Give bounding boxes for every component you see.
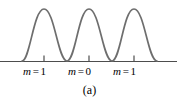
x-tick-label-center: m=0 [68, 66, 91, 77]
tick-label-right-symbol: m [113, 65, 121, 77]
tick-label-left-equals: = [31, 65, 40, 77]
tick-label-left-value: 1 [41, 65, 47, 77]
tick-label-left-symbol: m [23, 65, 31, 77]
tick-label-right-value: 1 [131, 65, 137, 77]
figure-caption: (a) [0, 84, 179, 96]
intensity-curve [22, 9, 157, 61]
tick-label-center-value: 0 [86, 65, 92, 77]
x-tick-label-right: m=1 [113, 66, 136, 77]
x-tick-label-left: m=1 [23, 66, 46, 77]
tick-label-center-equals: = [76, 65, 85, 77]
diffraction-figure: m=1 m=0 m=1 (a) [0, 0, 179, 110]
tick-label-center-symbol: m [68, 65, 76, 77]
tick-label-right-equals: = [121, 65, 130, 77]
